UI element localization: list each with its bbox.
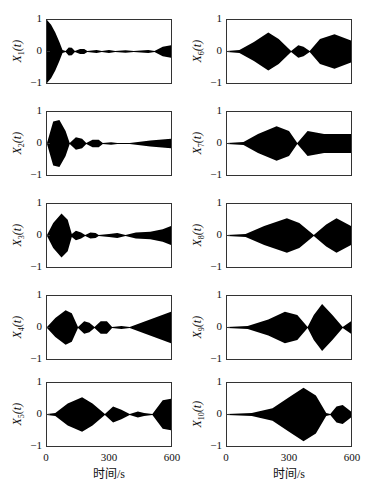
x-axis-label: 时间/s (93, 464, 125, 482)
subplot-8: X8(t)10−1 (226, 203, 352, 268)
y-axis-label: X2(t) (10, 123, 26, 163)
y-tick-label: 0 (37, 137, 43, 148)
plot-area (46, 382, 172, 447)
y-tick-label: −1 (210, 353, 222, 364)
x-tick-label: 300 (101, 451, 118, 463)
y-axis-label: X9(t) (190, 307, 206, 347)
y-tick-label: −1 (210, 77, 222, 88)
y-tick-label: 1 (37, 105, 43, 116)
signal-envelope (227, 296, 351, 359)
y-axis-label: X7(t) (190, 123, 206, 163)
y-axis-label: X8(t) (190, 215, 206, 255)
y-tick-label: 1 (217, 13, 223, 24)
subplot-1: X1(t)10−1 (46, 19, 172, 84)
y-tick-label: 0 (217, 137, 223, 148)
signal-envelope (227, 112, 351, 175)
y-tick-label: −1 (210, 261, 222, 272)
plot-area (46, 295, 172, 360)
y-tick-label: 0 (37, 321, 43, 332)
signal-envelope (47, 112, 171, 175)
plot-area (46, 111, 172, 176)
y-tick-label: 1 (37, 13, 43, 24)
x-tick-label: 600 (164, 451, 181, 463)
subplot-3: X3(t)10−1 (46, 203, 172, 268)
y-tick-label: 1 (217, 376, 223, 387)
y-tick-label: 1 (217, 197, 223, 208)
subplot-7: X7(t)10−1 (226, 111, 352, 176)
plot-area (226, 203, 352, 268)
y-tick-label: −1 (210, 169, 222, 180)
y-tick-label: 1 (217, 105, 223, 116)
x-axis-label: 时间/s (273, 464, 305, 482)
signal-envelope (47, 296, 171, 359)
y-tick-label: −1 (30, 353, 42, 364)
y-tick-label: −1 (30, 261, 42, 272)
subplot-6: X6(t)10−1 (226, 19, 352, 84)
signal-envelope (227, 20, 351, 83)
signal-envelope (47, 204, 171, 267)
plot-area (46, 19, 172, 84)
y-tick-label: −1 (30, 77, 42, 88)
y-tick-label: −1 (30, 440, 42, 451)
y-tick-label: 0 (217, 229, 223, 240)
y-axis-label: X6(t) (190, 31, 206, 71)
y-tick-label: 0 (37, 45, 43, 56)
y-axis-label: X4(t) (10, 307, 26, 347)
y-tick-label: 1 (37, 376, 43, 387)
y-axis-label: X10(t) (190, 394, 206, 434)
y-tick-label: −1 (210, 440, 222, 451)
subplot-4: X4(t)10−1 (46, 295, 172, 360)
subplot-9: X9(t)10−1 (226, 295, 352, 360)
subplot-10: X10(t)10−10300600时间/s (226, 382, 352, 447)
signal-envelope (47, 383, 171, 446)
y-tick-label: 1 (37, 289, 43, 300)
plot-area (46, 203, 172, 268)
y-axis-label: X3(t) (10, 215, 26, 255)
plot-area (226, 19, 352, 84)
signal-envelope (227, 383, 351, 446)
y-tick-label: 0 (217, 45, 223, 56)
plot-area (226, 111, 352, 176)
x-tick-label: 0 (43, 451, 49, 463)
x-tick-label: 300 (281, 451, 298, 463)
signal-envelope (47, 20, 171, 83)
y-axis-label: X5(t) (10, 394, 26, 434)
y-tick-label: −1 (30, 169, 42, 180)
y-tick-label: 0 (217, 408, 223, 419)
plot-area (226, 295, 352, 360)
x-tick-label: 0 (223, 451, 229, 463)
signal-envelope (227, 204, 351, 267)
y-tick-label: 1 (37, 197, 43, 208)
y-axis-label: X1(t) (10, 31, 26, 71)
y-tick-label: 1 (217, 289, 223, 300)
y-tick-label: 0 (217, 321, 223, 332)
plot-area (226, 382, 352, 447)
subplot-5: X5(t)10−10300600时间/s (46, 382, 172, 447)
x-tick-label: 600 (344, 451, 361, 463)
y-tick-label: 0 (37, 408, 43, 419)
subplot-2: X2(t)10−1 (46, 111, 172, 176)
y-tick-label: 0 (37, 229, 43, 240)
